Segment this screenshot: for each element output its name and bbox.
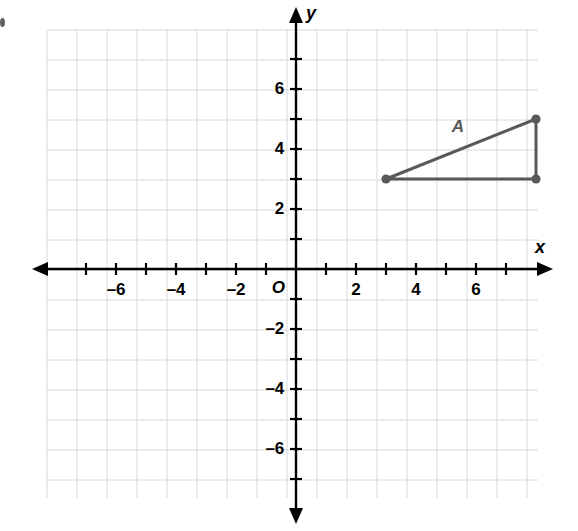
y-axis-label: y — [306, 3, 316, 24]
x-axis-tick-label: –6 — [107, 280, 126, 300]
origin-label: O — [272, 278, 285, 298]
plot-canvas — [0, 0, 578, 531]
y-axis-tick-label: –6 — [265, 439, 284, 459]
y-axis-tick-label: –2 — [265, 319, 284, 339]
x-axis-label: x — [535, 237, 545, 258]
axis-lines — [32, 7, 553, 524]
x-axis-arrow-right — [537, 262, 553, 276]
grid-lines — [47, 30, 538, 498]
shape-vertex-marker — [531, 114, 540, 123]
x-axis-tick-label: 2 — [351, 280, 360, 300]
y-axis-tick-label: 2 — [275, 199, 284, 219]
x-axis-tick-label: 4 — [411, 280, 420, 300]
y-axis-tick-label: 4 — [275, 139, 284, 159]
x-axis-arrow-left — [32, 262, 48, 276]
x-axis-tick-label: –2 — [227, 280, 246, 300]
coordinate-plane-figure: –6–4–2246642–2–4–6OxyA — [0, 0, 578, 531]
y-axis-tick-label: 6 — [275, 79, 284, 99]
shape-label-triangle-A: A — [452, 117, 464, 137]
y-axis-arrow-up — [289, 7, 303, 23]
shape-vertex-marker — [381, 174, 390, 183]
shape-vertex-marker — [531, 174, 540, 183]
y-axis-tick-label: –4 — [265, 379, 284, 399]
x-axis-tick-label: –4 — [167, 280, 186, 300]
y-axis-arrow-down — [289, 508, 303, 524]
x-axis-tick-label: 6 — [471, 280, 480, 300]
